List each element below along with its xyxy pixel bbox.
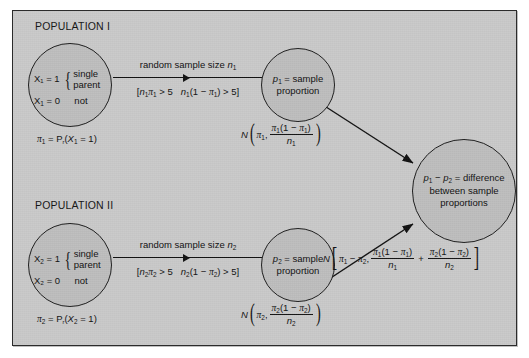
population-1-failure-row: X1 = 0 not bbox=[34, 96, 88, 107]
left-paren-icon: ( bbox=[250, 304, 255, 323]
population-2-circle-content: X2 = 1 { single parent X₂ = 0 not bbox=[29, 224, 111, 306]
sample-proportion-1-text: p1 = sample proportion bbox=[269, 73, 327, 97]
sample-proportion-1-line-1: p1 = sample bbox=[273, 73, 323, 84]
arrow-sample1-to-difference bbox=[323, 105, 413, 163]
difference-distribution-formula: N [ π1 − π2, π1(1 − π1) n1 + π2(1 − π2) … bbox=[323, 247, 481, 270]
population-2-success-row: X2 = 1 { single parent bbox=[34, 248, 101, 270]
population-1-brace-line-1: single bbox=[73, 68, 98, 79]
right-paren-icon: ) bbox=[316, 124, 321, 143]
population-2-success-label: X2 = 1 bbox=[34, 254, 60, 265]
left-bracket-icon: [ bbox=[332, 248, 337, 267]
distribution-2-formula: N ( π2, π2(1 − π2) n2 ) bbox=[241, 303, 322, 326]
population-1-sampling-arrow-group: random sample size n1 [n1π1 > 5 n1(1 − π… bbox=[113, 59, 263, 97]
arrow-head-icon bbox=[183, 254, 190, 262]
difference-line-1: p1 − p2 = difference bbox=[424, 172, 505, 183]
difference-term-1-fraction: π1(1 − π1) n1 bbox=[371, 247, 414, 270]
difference-distribution-symbol: N bbox=[323, 253, 330, 264]
population-1-parameter: π1 = Pr(X1 = 1) bbox=[37, 133, 97, 144]
population-2-arrow-line bbox=[113, 252, 263, 264]
population-2-brace-line-2: parent bbox=[74, 259, 101, 270]
brace-icon: { bbox=[65, 250, 72, 268]
population-1-brace-text: single parent bbox=[73, 68, 100, 90]
population-2-arrow-condition: [n2π2 > 5 n2(1 − π2) > 5] bbox=[113, 266, 263, 277]
difference-term-2-denominator: n2 bbox=[428, 258, 471, 270]
distribution-1-formula: N ( π1, π1(1 − π1) n1 ) bbox=[241, 123, 322, 146]
difference-distribution-mean: π1 − π2, bbox=[339, 253, 369, 264]
population-1-brace-line-2: parent bbox=[73, 79, 100, 90]
population-2-circle: X2 = 1 { single parent X₂ = 0 not bbox=[28, 223, 112, 307]
population-2-label: POPULATION II bbox=[35, 199, 113, 211]
plus-operator: + bbox=[418, 253, 424, 264]
sample-proportion-2-text: p2 = sample proportion bbox=[269, 253, 327, 277]
distribution-1-variance-numerator: π1(1 − π1) bbox=[270, 123, 313, 134]
difference-circle-text: p1 − p2 = difference between sample prop… bbox=[419, 172, 510, 209]
population-1-arrow-caption: random sample size n1 bbox=[113, 59, 263, 70]
right-bracket-icon: ] bbox=[474, 248, 479, 267]
population-1-circle: X₁ = 1 { single parent X1 = 0 not bbox=[28, 43, 112, 127]
arrow-head-icon bbox=[183, 74, 190, 82]
population-1-failure-label: X1 = 0 bbox=[34, 95, 60, 106]
population-2-failure-value: not bbox=[74, 275, 87, 286]
difference-term-1-denominator: n1 bbox=[371, 258, 414, 270]
difference-line-3: proportions bbox=[440, 197, 488, 208]
distribution-1-variance-denominator: n1 bbox=[270, 134, 313, 146]
population-2-brace-text: single parent bbox=[74, 248, 101, 270]
distribution-1-symbol: N bbox=[241, 129, 248, 140]
difference-line-2: between sample bbox=[429, 185, 498, 196]
brace-icon: { bbox=[64, 70, 71, 88]
sample-proportion-2-line-1: p2 = sample bbox=[273, 253, 323, 264]
population-1-label: POPULATION I bbox=[35, 20, 110, 32]
distribution-2-symbol: N bbox=[241, 309, 248, 320]
population-2-failure-row: X₂ = 0 not bbox=[34, 276, 88, 287]
difference-circle: p1 − p2 = difference between sample prop… bbox=[412, 139, 516, 243]
population-1-success-row: X₁ = 1 { single parent bbox=[34, 68, 100, 90]
sample-proportion-1-line-2: proportion bbox=[277, 85, 320, 96]
sample-proportion-1-circle: p1 = sample proportion bbox=[261, 48, 335, 122]
left-paren-icon: ( bbox=[250, 124, 255, 143]
distribution-2-variance-fraction: π2(1 − π2) n2 bbox=[270, 303, 313, 326]
difference-term-2-numerator: π2(1 − π2) bbox=[428, 247, 471, 258]
population-1-circle-content: X₁ = 1 { single parent X1 = 0 not bbox=[29, 44, 111, 126]
distribution-2-variance-numerator: π2(1 − π2) bbox=[270, 303, 313, 314]
sample-proportion-2-line-2: proportion bbox=[277, 265, 320, 276]
distribution-1-mean: π1, bbox=[257, 129, 268, 140]
right-paren-icon: ) bbox=[316, 304, 321, 323]
population-2-parameter: π2 = Pr(X2 = 1) bbox=[37, 313, 97, 324]
population-2-sampling-arrow-group: random sample size n2 [n2π2 > 5 n2(1 − π… bbox=[113, 239, 263, 277]
distribution-1-variance-fraction: π1(1 − π1) n1 bbox=[270, 123, 313, 146]
population-2-arrow-caption: random sample size n2 bbox=[113, 239, 263, 250]
distribution-2-mean: π2, bbox=[257, 309, 268, 320]
difference-term-1-numerator: π1(1 − π1) bbox=[371, 247, 414, 258]
population-1-arrow-line bbox=[113, 72, 263, 84]
difference-term-2-fraction: π2(1 − π2) n2 bbox=[428, 247, 471, 270]
population-2-failure-label: X₂ = 0 bbox=[34, 275, 60, 286]
figure-frame: POPULATION I X₁ = 1 { single parent X1 =… bbox=[12, 10, 517, 346]
population-2-brace-line-1: single bbox=[74, 248, 99, 259]
population-1-success-label: X₁ = 1 bbox=[34, 74, 60, 85]
population-1-arrow-condition: [n1π1 > 5 n1(1 − π1) > 5] bbox=[113, 86, 263, 97]
distribution-2-variance-denominator: n2 bbox=[270, 314, 313, 326]
population-1-failure-value: not bbox=[74, 95, 87, 106]
